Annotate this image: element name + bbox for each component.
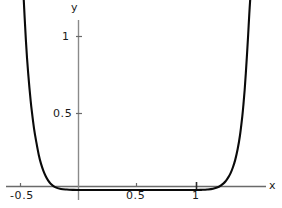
- plot-canvas: [0, 0, 282, 208]
- x-axis-label: x: [269, 180, 276, 191]
- y-tick-label-05: 0.5: [53, 108, 72, 119]
- data-curve: [24, 0, 251, 190]
- y-axis-label: y: [71, 2, 78, 13]
- plot-figure: -0.5 0.5 1 0.5 1 x y: [0, 0, 282, 208]
- x-tick-label-neg05: -0.5: [10, 190, 34, 201]
- x-tick-label-1: 1: [192, 190, 200, 201]
- x-tick-label-05: 0.5: [126, 190, 145, 201]
- y-tick-label-1: 1: [62, 31, 70, 42]
